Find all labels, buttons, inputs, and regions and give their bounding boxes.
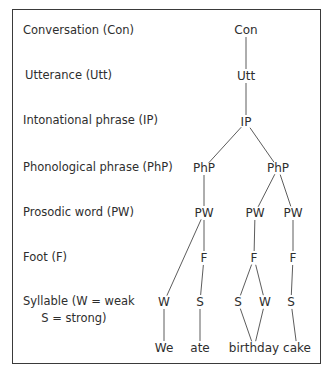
tree-edge [240,309,251,342]
tree-edge [292,309,296,341]
tree-node-pw3: PW [283,206,302,220]
tree-node-syl5: S [287,295,295,309]
tree-edge [291,265,292,295]
tree-node-utt: Utt [237,69,255,83]
tree-node-syl2: S [196,295,204,309]
tree-node-syl4: W [259,295,271,309]
tree-edge [201,265,204,295]
tree-node-w1: We [155,341,174,355]
tree-edge [254,220,255,251]
tree-node-ip: IP [241,115,252,129]
tree-edge [250,128,274,163]
tree-edges [0,0,331,379]
tree-node-w3: birthday [229,341,279,355]
tree-edge [256,309,264,341]
tree-node-syl1: W [158,295,170,309]
tree-node-php2: PhP [267,161,289,175]
tree-node-f2: F [251,251,258,265]
tree-node-pw2: PW [245,206,264,220]
tree-node-w4: cake [283,341,311,355]
tree-edge [256,265,264,295]
tree-edge [209,127,242,163]
tree-node-f1: F [201,251,208,265]
tree-node-w2: ate [190,341,209,355]
tree-node-con: Con [234,23,257,37]
tree-node-pw1: PW [194,206,213,220]
tree-edge [240,265,251,296]
tree-edge [258,174,275,207]
tree-node-f3: F [290,251,297,265]
tree-node-php1: PhP [193,161,215,175]
tree-edge [280,175,291,207]
tree-node-syl3: S [234,295,242,309]
tree-edge [167,219,201,295]
